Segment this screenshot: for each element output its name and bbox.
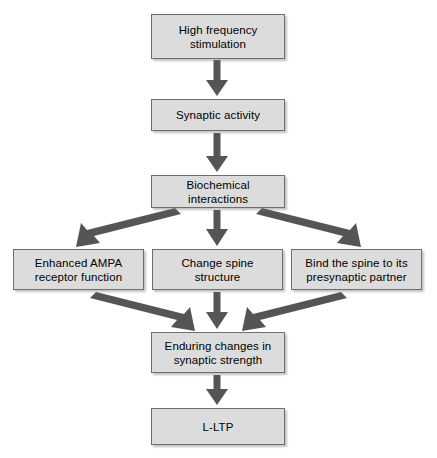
- node-label: Biochemical interactions: [152, 178, 284, 206]
- arrow-enduring-to-lltp: [206, 375, 228, 405]
- arrow-ampa-to-enduring: [90, 292, 195, 331]
- node-synaptic-activity[interactable]: Synaptic activity: [151, 99, 285, 131]
- node-label: L-LTP: [199, 420, 238, 434]
- arrow-activity-to-biochemical: [206, 133, 228, 172]
- node-label: Change spine structure: [177, 256, 257, 284]
- node-l-ltp[interactable]: L-LTP: [151, 408, 285, 445]
- node-label: Synaptic activity: [172, 108, 264, 122]
- node-high-frequency-stimulation[interactable]: High frequency stimulation: [151, 14, 285, 59]
- arrow-stimulation-to-activity: [206, 60, 228, 96]
- node-label: Enduring changes in synaptic strength: [161, 339, 276, 367]
- arrow-biochemical-to-bind: [256, 208, 361, 247]
- arrow-spine-to-enduring: [206, 292, 228, 329]
- arrow-biochemical-to-spine: [206, 210, 228, 246]
- node-biochemical-interactions[interactable]: Biochemical interactions: [151, 175, 285, 208]
- node-label: High frequency stimulation: [175, 23, 262, 51]
- flowchart-canvas: High frequency stimulation Synaptic acti…: [0, 0, 437, 458]
- node-change-spine-structure[interactable]: Change spine structure: [152, 249, 283, 290]
- node-bind-the-spine-to-its-presynaptic-partner[interactable]: Bind the spine to its presynaptic partne…: [291, 249, 422, 290]
- arrow-biochemical-to-ampa: [76, 208, 181, 247]
- arrow-bind-to-enduring: [242, 292, 347, 331]
- node-enhanced-ampa-receptor-function[interactable]: Enhanced AMPA receptor function: [13, 249, 144, 290]
- node-label: Enhanced AMPA receptor function: [31, 256, 126, 284]
- node-enduring-changes-in-synaptic-strength[interactable]: Enduring changes in synaptic strength: [151, 332, 285, 373]
- arrow-layer: [0, 0, 437, 458]
- node-label: Bind the spine to its presynaptic partne…: [301, 256, 411, 284]
